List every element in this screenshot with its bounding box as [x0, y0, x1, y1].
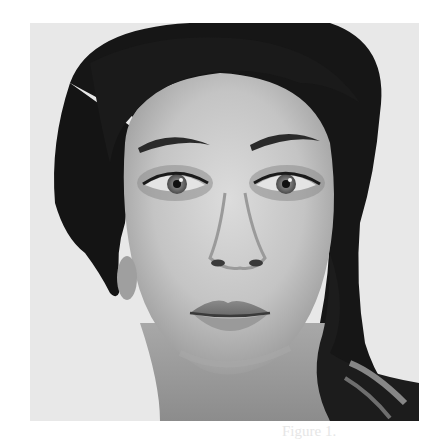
portrait-photo: [30, 23, 419, 421]
figure-caption: Figure 1.: [282, 422, 372, 440]
left-ear: [117, 256, 137, 300]
top-watermark: [110, 2, 340, 20]
portrait-illustration: [30, 23, 419, 421]
